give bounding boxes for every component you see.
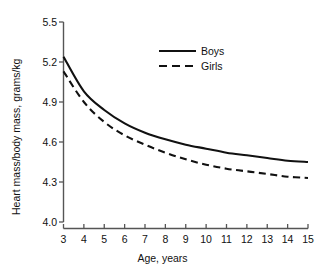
chart-figure: 4.04.34.64.95.25.5 3456789101112131415 H… — [0, 0, 325, 278]
x-tick-label: 3 — [61, 233, 67, 245]
x-tick-label: 12 — [241, 233, 253, 245]
y-tick-label: 4.3 — [24, 176, 57, 188]
series-line-girls — [64, 71, 309, 178]
x-tick-label: 14 — [282, 233, 294, 245]
y-tick-label: 4.0 — [24, 216, 57, 228]
x-tick-label: 9 — [183, 233, 189, 245]
series-line-boys — [64, 57, 309, 162]
y-tick-label: 4.9 — [24, 96, 57, 108]
x-tick-label: 13 — [261, 233, 273, 245]
y-tick-label: 5.2 — [24, 56, 57, 68]
x-tick-label: 10 — [200, 233, 212, 245]
x-tick-label: 6 — [122, 233, 128, 245]
x-tick-label: 5 — [101, 233, 107, 245]
data-series-group — [64, 57, 309, 178]
y-tick-label: 5.5 — [24, 16, 57, 28]
x-tick-label: 7 — [142, 233, 148, 245]
y-tick-label: 4.6 — [24, 136, 57, 148]
legend-line-samples — [159, 51, 196, 66]
y-axis-title: Heart mass/body mass, grams/kg — [10, 59, 22, 215]
x-tick-label: 11 — [221, 233, 232, 245]
x-tick-label: 4 — [81, 233, 87, 245]
legend-label-girls: Girls — [201, 60, 223, 72]
x-axis-title: Age, years — [0, 252, 325, 264]
x-tick-label: 8 — [162, 233, 168, 245]
x-tick-label: 15 — [302, 233, 314, 245]
legend-label-boys: Boys — [201, 45, 224, 57]
